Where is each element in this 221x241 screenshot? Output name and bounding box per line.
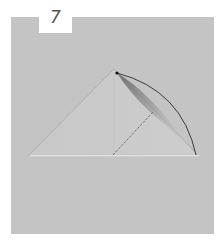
step-number-badge: 7: [39, 0, 72, 33]
origami-illustration: [0, 0, 221, 241]
step-number: 7: [50, 7, 61, 27]
arrow-start-dot: [115, 71, 118, 74]
paper-triangle: [29, 69, 199, 156]
